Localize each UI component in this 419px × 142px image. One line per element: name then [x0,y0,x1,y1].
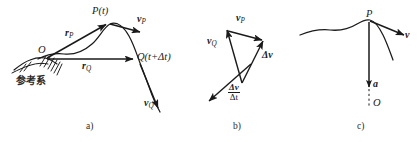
ratio-denominator: Δt [228,93,240,102]
panel-c-graphics [300,20,404,108]
label-point-p-c: P [366,9,372,20]
label-vector-v-c: v [405,30,409,40]
reference-frame-ground-lower [12,63,48,73]
label-delta-v-b: Δv [262,50,273,60]
label-vector-vq-b: vQ [207,36,217,48]
vector-v-arrow-c [370,21,404,35]
label-reference-frame: 参考系 [16,76,46,86]
label-vector-vp-b: vP [236,13,245,25]
vector-rq-subscript: Q [86,65,91,73]
vector-rp-subscript: P [69,32,73,40]
vector-vq-subscript: Q [148,102,153,110]
physics-figure: P(t) vP rP O rQ Q(t+Δt) 参考系 vQ vP vQ Δv … [0,0,419,142]
delta-v-symbol: Δv [262,49,273,60]
vector-vp-arrow-b [228,31,262,40]
vector-vp-subscript: P [141,18,145,26]
trajectory-curve-c [300,20,393,60]
label-vector-rq: rQ [82,61,91,73]
vector-delta-v-arrow-b [242,41,263,83]
label-vector-rp: rP [65,28,73,40]
label-point-q: Q(t+Δt) [137,52,171,63]
label-vector-a-c: a [373,79,378,89]
panel-caption-c: c) [357,122,364,132]
label-vector-vq: vQ [144,98,154,110]
label-centre-o-c: O [373,98,381,109]
vector-vq-subscript-b: Q [211,40,216,48]
vector-a-symbol-c: a [373,78,378,89]
vector-v-symbol-c: v [405,29,409,40]
panel-caption-b: b) [233,122,241,132]
label-delta-v-over-delta-t-b: Δv Δt [228,83,240,103]
vector-vp-subscript-b: P [240,17,244,25]
label-point-p: P(t) [92,6,108,17]
panel-caption-a: a) [86,122,93,132]
label-origin-o: O [38,45,46,56]
vector-vq-arrow-b [227,30,242,83]
acceleration-ratio-fraction: Δv Δt [228,83,240,103]
label-vector-vp: vP [137,14,146,26]
